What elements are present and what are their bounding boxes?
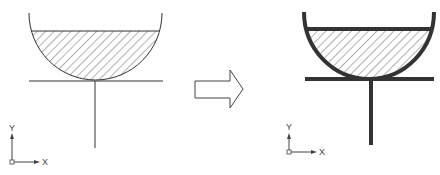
- x-axis-label-after: X: [319, 147, 325, 157]
- diagram-canvas: Y X Y X: [0, 0, 440, 175]
- y-axis-label-before: Y: [9, 123, 15, 133]
- y-axis-label-after: Y: [286, 122, 292, 132]
- ucs-icon-after: Y X: [286, 122, 325, 157]
- hatched-fill-after: [304, 29, 435, 81]
- x-axis-label-before: X: [42, 157, 48, 167]
- hatched-fill-before: [29, 31, 163, 83]
- transition-arrow-icon: [195, 70, 243, 108]
- before-figure: [29, 13, 163, 148]
- after-figure: [304, 12, 435, 145]
- ucs-icon-before: Y X: [9, 123, 48, 167]
